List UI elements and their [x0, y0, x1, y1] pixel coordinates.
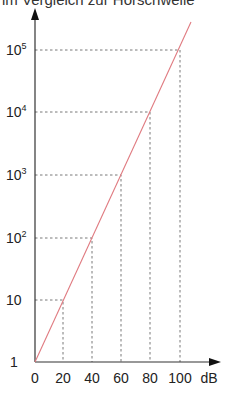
x-tick-20: 20: [55, 370, 71, 386]
data-line: [35, 22, 191, 362]
y-axis-arrow-icon: [31, 8, 39, 20]
y-tick-labels: 1 10 102 103 104 105: [6, 41, 27, 370]
y-tick-1e2: 102: [6, 229, 27, 246]
x-tick-40: 40: [84, 370, 100, 386]
y-tick-10: 10: [6, 292, 22, 308]
x-tick-labels: 0 20 40 60 80 100 dB: [31, 370, 217, 386]
y-tick-1e3: 103: [6, 166, 27, 183]
x-axis-label: dB: [200, 370, 217, 386]
chart-plot: 1 10 102 103 104 105 0 20 40 60 80 100 d…: [0, 0, 228, 393]
x-axis-arrow-icon: [209, 358, 221, 366]
y-tick-1e5: 105: [6, 41, 27, 58]
x-tick-60: 60: [113, 370, 129, 386]
x-tick-0: 0: [31, 370, 39, 386]
x-tick-100: 100: [168, 370, 192, 386]
axes: [35, 18, 212, 362]
y-tick-1: 1: [10, 354, 18, 370]
x-tick-80: 80: [142, 370, 158, 386]
y-tick-1e4: 104: [6, 103, 27, 120]
